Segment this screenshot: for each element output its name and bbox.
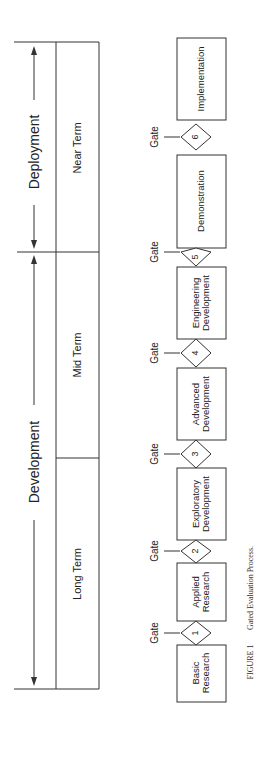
figure-caption: Gated Evaluation Process.: [247, 546, 255, 630]
term-label-near: Near Term: [72, 122, 84, 173]
term-label-long: Long Term: [72, 548, 84, 600]
stage-implementation: Implementation: [196, 47, 206, 112]
stage-demonstration: Demonstration: [196, 170, 206, 232]
phase-label-development: Development: [27, 421, 42, 504]
gate-label: Gate: [150, 443, 161, 465]
gate-label: Gate: [150, 342, 161, 364]
stage-applied-research: AppliedResearch: [191, 572, 211, 613]
gate-number: 6: [191, 134, 200, 139]
gate-label: Gate: [150, 622, 161, 644]
arrowhead-up-icon: [31, 255, 37, 264]
arrowhead-up-icon: [31, 46, 37, 55]
gate-number: 4: [191, 350, 200, 355]
gate-label: Gate: [150, 540, 161, 562]
arrowhead-down-icon: [31, 240, 37, 249]
stage-basic-research: BasicResearch: [191, 653, 211, 694]
gate-number: 2: [191, 548, 200, 553]
term-label-mid: Mid Term: [72, 332, 84, 377]
gate-label: Gate: [150, 126, 161, 148]
stage-exploratory-development: ExploratoryDevelopment: [191, 476, 211, 532]
stage-engineering-development: EngineeringDevelopment: [191, 275, 211, 331]
gate-number: 5: [191, 254, 200, 259]
stage-advanced-development: AdvancedDevelopment: [191, 376, 211, 432]
arrowhead-down-icon: [31, 677, 37, 686]
phase-label-deployment: Deployment: [27, 115, 42, 190]
gate-number: 3: [191, 451, 200, 456]
gate-number: 1: [191, 630, 200, 635]
figure-number: FIGURE 1: [247, 645, 255, 680]
gate-label: Gate: [150, 241, 161, 263]
